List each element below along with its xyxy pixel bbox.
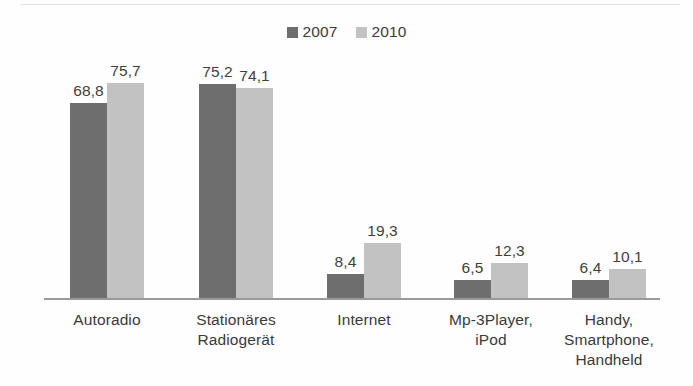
bar-wrap: 6,4 bbox=[572, 280, 609, 298]
bar-group-stationaeres-radiogeraet: 75,2 74,1 bbox=[192, 83, 280, 298]
bar-2007[interactable] bbox=[70, 103, 107, 298]
bar-wrap: 10,1 bbox=[609, 269, 646, 298]
bar-value-label: 10,1 bbox=[612, 248, 643, 266]
bar-2007[interactable] bbox=[327, 274, 364, 298]
bar-2010[interactable] bbox=[236, 88, 273, 299]
bar-value-label: 75,7 bbox=[110, 62, 141, 80]
bar-value-label: 74,1 bbox=[239, 67, 270, 85]
bar-value-label: 12,3 bbox=[494, 242, 525, 260]
bar-wrap: 12,3 bbox=[491, 263, 528, 298]
bar-wrap: 68,8 bbox=[70, 103, 107, 298]
x-tick-label-stationaeres-radiogeraet: Stationäres Radiogerät bbox=[176, 310, 296, 350]
bar-2007[interactable] bbox=[199, 84, 236, 298]
bar-2010[interactable] bbox=[364, 243, 401, 298]
x-tick-label-mp3player-ipod: Mp-3Player, iPod bbox=[431, 310, 551, 350]
bar-2007[interactable] bbox=[454, 280, 491, 299]
x-tick-label-autoradio: Autoradio bbox=[47, 310, 167, 330]
bar-chart: 2007 2010 68,8 75,7 75,2 bbox=[0, 0, 693, 386]
bar-wrap: 75,7 bbox=[107, 83, 144, 298]
bar-value-label: 19,3 bbox=[367, 222, 398, 240]
plot-area: 68,8 75,7 75,2 74,1 8,4 bbox=[0, 0, 693, 386]
bar-value-label: 8,4 bbox=[335, 253, 357, 271]
bar-group-mp3player-ipod: 6,5 12,3 bbox=[447, 83, 535, 298]
bar-group-internet: 8,4 19,3 bbox=[320, 83, 408, 298]
x-axis-baseline bbox=[44, 298, 660, 300]
bar-value-label: 6,5 bbox=[462, 259, 484, 277]
bar-value-label: 68,8 bbox=[73, 82, 104, 100]
bar-group-autoradio: 68,8 75,7 bbox=[63, 83, 151, 298]
bar-2010[interactable] bbox=[609, 269, 646, 298]
bar-2010[interactable] bbox=[107, 83, 144, 298]
bar-2007[interactable] bbox=[572, 280, 609, 298]
bar-wrap: 6,5 bbox=[454, 280, 491, 299]
bar-2010[interactable] bbox=[491, 263, 528, 298]
bar-wrap: 19,3 bbox=[364, 243, 401, 298]
bar-group-handy-smartphone-handheld: 6,4 10,1 bbox=[565, 83, 653, 298]
bar-wrap: 74,1 bbox=[236, 88, 273, 299]
bar-value-label: 6,4 bbox=[580, 259, 602, 277]
x-tick-label-handy-smartphone-handheld: Handy, Smartphone, Handheld bbox=[549, 310, 669, 370]
bar-wrap: 75,2 bbox=[199, 84, 236, 298]
x-tick-label-internet: Internet bbox=[304, 310, 424, 330]
bar-wrap: 8,4 bbox=[327, 274, 364, 298]
bar-value-label: 75,2 bbox=[202, 63, 233, 81]
